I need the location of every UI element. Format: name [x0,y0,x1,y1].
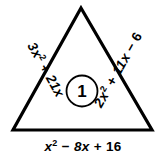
triangle-diagram-svg: 1 3x2 + 21x 2x2 + 11x − 6 x2 − 8x + 16 [0,0,164,161]
bottom-operator-sign: − [62,139,70,154]
bottom-side-label-group: x2 − 8x + 16 [44,138,122,154]
right-side-expression: 2x2 + 11x − 6 [90,29,146,111]
left-side-label-group: 3x2 + 21x [24,39,68,100]
left-side-expression: 3x2 + 21x [24,39,68,100]
triangle-diagram-figure: 1 3x2 + 21x 2x2 + 11x − 6 x2 − 8x + 16 [0,0,164,161]
bottom-side-expression: x2 − 8x + 16 [44,138,122,154]
bottom-operator2-sign: + [94,139,102,154]
bottom-term-3: 16 [106,139,122,154]
triangle-outline [13,8,152,130]
bottom-term-1: x [44,139,53,154]
bottom-term-2: 8x [74,139,90,154]
right-side-label-group: 2x2 + 11x − 6 [90,29,146,111]
problem-number-label: 1 [77,82,86,101]
